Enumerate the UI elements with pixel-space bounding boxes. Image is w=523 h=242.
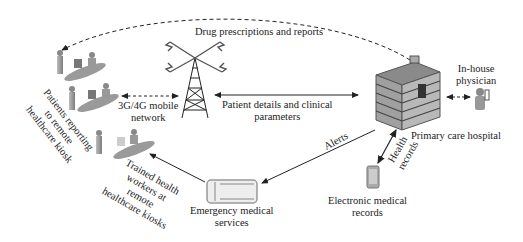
ambulance-icon (207, 180, 257, 203)
ems-label: Emergency medical services (190, 205, 273, 229)
patient-details-label: Patient details and clinical parameters (222, 99, 333, 123)
physician-label-line-2: physician (456, 75, 496, 87)
emr-label-line-2: records (328, 207, 407, 219)
emr-label: Electronic medical records (328, 195, 407, 219)
network-label-line-1: 3G/4G mobile (118, 100, 178, 112)
drug-prescriptions-label: Drug prescriptions and reports (195, 26, 323, 38)
alerts-arrow (262, 130, 375, 183)
physician-icon (475, 88, 489, 110)
kiosk-icon-2 (69, 83, 120, 115)
ems-label-line-1: Emergency medical (190, 205, 273, 217)
ems-label-line-2: services (190, 217, 273, 229)
physician-label: In-house physician (456, 63, 496, 87)
network-label-line-2: network (118, 112, 178, 124)
kiosk-icon-1 (57, 50, 107, 84)
physician-label-line-1: In-house (456, 63, 496, 75)
hospital-icon (376, 56, 440, 130)
patient-details-line-2: parameters (222, 111, 333, 123)
network-label: 3G/4G mobile network (118, 100, 178, 124)
emr-label-line-1: Electronic medical (328, 195, 407, 207)
hospital-label: Primary care hospital (411, 130, 501, 142)
server-icon (367, 166, 379, 188)
patient-details-line-1: Patient details and clinical (222, 99, 333, 111)
